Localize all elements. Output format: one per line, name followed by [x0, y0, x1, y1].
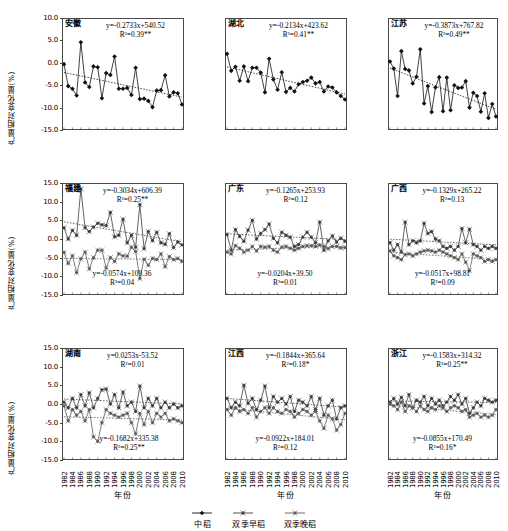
- x-tick-label: 1986: [240, 462, 248, 488]
- regression-annotation: y=-0.0204x+39.50R²=0.01: [227, 269, 343, 287]
- y-tick-label: -10.0: [22, 437, 58, 445]
- y-tick-label: -5.0: [22, 419, 58, 427]
- y-tick-mark: [60, 130, 63, 131]
- chart-panel: 湖北y=-0.2134x+423.62R²=0.41**: [225, 18, 347, 130]
- x-tick-label: 1984: [394, 462, 402, 488]
- regression-annotation: y=-0.0922x+184.01R²=0.12: [227, 434, 343, 452]
- regression-r2: R²=0.12: [227, 443, 343, 452]
- regression-equation: y=-0.0204x+39.50: [227, 269, 343, 278]
- y-tick-label: 0.0: [22, 400, 58, 408]
- y-tick-label: -5.0: [22, 254, 58, 262]
- x-tick-label: 1998: [128, 462, 136, 488]
- chart-panel: 浙江y=-0.1583x+314.32R²=0.25**y=-0.0855x+1…: [388, 348, 498, 460]
- legend-item: 双季晚稻: [284, 508, 317, 529]
- y-tick-label: 15.0: [22, 344, 58, 352]
- y-tick-label: 10.0: [22, 363, 58, 371]
- x-tick-label: 1988: [249, 462, 257, 488]
- legend-item: 双季早稻: [232, 508, 265, 529]
- y-tick-label: 10.0: [22, 14, 58, 22]
- y-tick-mark: [60, 460, 63, 461]
- x-tick-label: 2006: [162, 462, 170, 488]
- x-tick-label: 2008: [485, 462, 493, 488]
- chart-panel: 江苏y=-0.3873x+767.82R²=0.49**: [388, 18, 498, 130]
- x-tick-label: 2002: [145, 462, 153, 488]
- legend-item: 中稻: [191, 508, 214, 529]
- y-tick-mark: [60, 367, 63, 368]
- y-axis-title-row1: 产量相对变化量(%): [6, 40, 17, 145]
- x-tick-label: 1984: [69, 462, 77, 488]
- regression-equation: y=0.0253x-53.52: [86, 351, 179, 360]
- legend-label: 双季早稻: [232, 520, 265, 529]
- x-tick-label: 1986: [77, 462, 85, 488]
- legend-marker-icon: [284, 508, 306, 518]
- regression-annotation: y=-0.1329x+265.22R²=0.13: [410, 186, 494, 204]
- x-tick-label: 2004: [153, 462, 161, 488]
- y-tick-mark: [60, 85, 63, 86]
- panel-title: 湖北: [228, 19, 244, 29]
- regression-equation: y=-0.1265x+253.93: [249, 186, 342, 195]
- legend-marker-icon: [232, 508, 254, 518]
- x-tick-label: 2006: [325, 462, 333, 488]
- regression-equation: y=-0.0574x+109.36: [64, 269, 180, 278]
- regression-annotation: y=-0.3034x+606.39R²=0.25**: [86, 186, 179, 204]
- y-tick-mark: [60, 385, 63, 386]
- y-tick-label: -15.0: [22, 126, 58, 134]
- x-tick-label: 1998: [291, 462, 299, 488]
- regression-equation: y=-0.1682x+335.38: [79, 434, 179, 443]
- chart-panel: 江西y=-0.1844x+365.64R²=0.18*y=-0.0922x+18…: [225, 348, 347, 460]
- y-tick-mark: [60, 63, 63, 64]
- chart-panel: 安徽y=-0.2733x+540.52R²=0.39**: [62, 18, 184, 130]
- x-tick-label: 1990: [94, 462, 102, 488]
- y-tick-mark: [60, 202, 63, 203]
- legend: 中稻 双季早稻 双季晚稻: [0, 508, 508, 529]
- x-tick-label: 1996: [120, 462, 128, 488]
- y-tick-label: -5.0: [22, 81, 58, 89]
- x-tick-label: 2008: [333, 462, 341, 488]
- x-tick-label: 1996: [283, 462, 291, 488]
- y-tick-mark: [60, 18, 63, 19]
- y-tick-mark: [60, 423, 63, 424]
- x-tick-label: 1994: [432, 462, 440, 488]
- regression-r2: R²=0.18*: [249, 360, 342, 369]
- figure-root: 产量相对变化量(%) 产量相对变化量(%) 产量相对变化量(%) 安徽y=-0.…: [0, 0, 508, 531]
- regression-annotation: y=-0.1583x+314.32R²=0.25**: [410, 351, 494, 369]
- chart-panel: 湖南y=0.0253x-53.52R²=0.01y=-0.1682x+335.3…: [62, 348, 184, 460]
- x-tick-label: 1984: [232, 462, 240, 488]
- y-tick-mark: [60, 40, 63, 41]
- regression-annotation: y=-0.1682x+335.38R²=0.25**: [79, 434, 179, 452]
- y-tick-label: 10.0: [22, 198, 58, 206]
- y-tick-mark: [60, 258, 63, 259]
- regression-equation: y=-0.3034x+606.39: [86, 186, 179, 195]
- regression-annotation: y=-0.1844x+365.64R²=0.18*: [249, 351, 342, 369]
- x-tick-label: 1994: [111, 462, 119, 488]
- regression-equation: y=-0.2134x+423.62: [252, 21, 345, 30]
- regression-annotation: y=-0.1265x+253.93R²=0.12: [249, 186, 342, 204]
- y-tick-label: -10.0: [22, 272, 58, 280]
- panel-title: 安徽: [65, 19, 81, 29]
- regression-annotation: y=0.0253x-53.52R²=0.01: [86, 351, 179, 369]
- regression-r2: R²=0.41**: [252, 30, 345, 39]
- regression-r2: R²=0.25**: [79, 443, 179, 452]
- regression-equation: y=-0.1583x+314.32: [410, 351, 494, 360]
- regression-r2: R²=0.25**: [86, 195, 179, 204]
- regression-annotation: y=-0.3873x+767.82R²=0.49**: [412, 21, 496, 39]
- regression-r2: R²=0.49**: [412, 30, 496, 39]
- y-axis-title-row2: 产量相对变化量(%): [6, 205, 17, 310]
- y-tick-label: -15.0: [22, 291, 58, 299]
- x-axis-title-col1: 年份: [62, 489, 184, 500]
- y-tick-mark: [60, 108, 63, 109]
- panel-title: 广西: [391, 184, 407, 194]
- y-tick-mark: [60, 220, 63, 221]
- regression-equation: y=-0.0922x+184.01: [227, 434, 343, 443]
- x-tick-label: 1998: [447, 462, 455, 488]
- y-tick-mark: [60, 441, 63, 442]
- y-tick-label: 0.0: [22, 235, 58, 243]
- y-tick-label: 0.0: [22, 59, 58, 67]
- chart-panel: 福建y=-0.3034x+606.39R²=0.25**y=-0.0574x+1…: [62, 183, 184, 295]
- x-tick-label: 2000: [136, 462, 144, 488]
- panel-title: 广东: [228, 184, 244, 194]
- panel-title: 湖南: [65, 349, 81, 359]
- y-tick-label: 15.0: [22, 179, 58, 187]
- x-axis-title-col2: 年份: [225, 489, 347, 500]
- x-tick-label: 2010: [342, 462, 350, 488]
